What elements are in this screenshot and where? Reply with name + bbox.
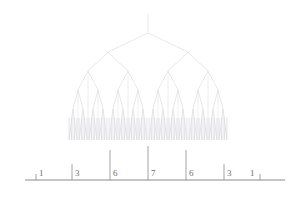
integration-label-5: 3	[227, 169, 232, 178]
integration-label-3: 7	[151, 169, 156, 178]
figure-canvas: 1367631	[0, 0, 297, 197]
integration-label-0: 1	[39, 169, 44, 178]
integration-label-1: 3	[75, 169, 80, 178]
integration-label-4: 6	[189, 169, 194, 178]
integration-label-2: 6	[113, 169, 118, 178]
integration-label-6: 1	[250, 169, 255, 178]
